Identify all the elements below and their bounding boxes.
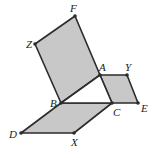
label-F: F	[69, 2, 77, 14]
label-B: B	[50, 97, 57, 109]
label-D: D	[8, 128, 17, 140]
point-B	[59, 101, 63, 105]
point-C	[110, 101, 114, 105]
label-Z: Z	[26, 38, 33, 50]
point-D	[19, 131, 23, 135]
point-Y	[125, 73, 129, 77]
diagram-svg: FZAYBCEDX	[0, 0, 160, 158]
label-A: A	[98, 61, 106, 73]
point-A	[98, 73, 102, 77]
point-F	[73, 14, 77, 18]
point-X	[72, 131, 76, 135]
geometry-diagram: FZAYBCEDX	[0, 0, 160, 158]
label-C: C	[113, 106, 121, 118]
label-E: E	[140, 102, 148, 114]
label-X: X	[70, 136, 79, 148]
point-Z	[33, 42, 37, 46]
label-Y: Y	[125, 61, 133, 73]
parallelogram-DBCX	[21, 103, 112, 133]
point-E	[136, 101, 140, 105]
